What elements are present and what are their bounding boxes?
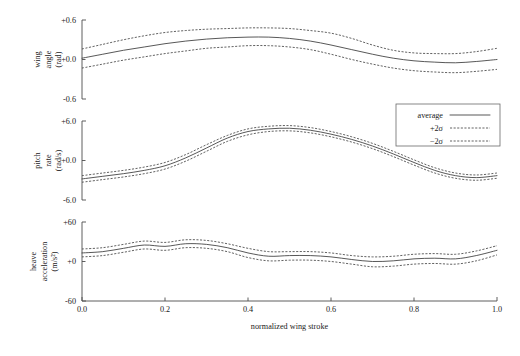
x-tick-label-3: 0.6 xyxy=(326,305,336,314)
y-tick-label-heave-acceleration-0: +60 xyxy=(63,218,76,227)
y-axis-title-pitch-rate-line1: rate xyxy=(44,154,53,167)
x-axis-title: normalized wing stroke xyxy=(251,322,329,331)
y-axis-title-heave-acceleration-line2: (m/s²) xyxy=(50,251,59,271)
y-tick-label-pitch-rate-0: +6.0 xyxy=(61,117,76,126)
panel-heave-acceleration: +60+0-60heaveacceleration(m/s²) xyxy=(29,218,497,306)
y-tick-label-wing-angle-2: -0.6 xyxy=(63,95,76,104)
curve-wing-angle-plus2sigma xyxy=(82,28,497,54)
y-axis-title-heave-acceleration-line1: acceleration xyxy=(40,242,49,282)
y-axis-title-pitch-rate-line0: pitch xyxy=(33,152,42,168)
legend: average+2σ−2σ xyxy=(396,104,500,146)
figure-container: +0.6+0.0-0.6wingangle(rad)+6.0+0.0-6.0pi… xyxy=(0,0,520,356)
curve-wing-angle-average xyxy=(82,37,497,63)
legend-label-1: +2σ xyxy=(430,124,444,133)
x-tick-label-2: 0.4 xyxy=(243,305,253,314)
y-axis-title-wing-angle-line0: wing xyxy=(33,51,42,67)
legend-label-0: average xyxy=(418,111,444,120)
x-axis-spine xyxy=(82,297,497,301)
x-tick-label-5: 1.0 xyxy=(492,305,502,314)
curve-heave-acceleration-plus2sigma xyxy=(82,240,497,257)
curve-heave-acceleration-minus2sigma xyxy=(82,248,497,267)
x-tick-label-4: 0.8 xyxy=(409,305,419,314)
y-tick-label-heave-acceleration-2: -60 xyxy=(65,297,76,306)
y-tick-label-pitch-rate-2: -6.0 xyxy=(63,196,76,205)
y-tick-label-wing-angle-1: +0.0 xyxy=(61,55,76,64)
y-axis-title-wing-angle-line2: (rad) xyxy=(54,51,63,67)
curve-heave-acceleration-average xyxy=(82,244,497,262)
y-axis-title-wing-angle-line1: angle xyxy=(44,50,53,68)
legend-label-2: −2σ xyxy=(430,137,444,146)
y-tick-label-heave-acceleration-1: +0 xyxy=(67,257,76,266)
y-axis-title-pitch-rate-line2: (rad/s) xyxy=(54,150,63,172)
x-tick-label-1: 0.2 xyxy=(160,305,170,314)
x-axis: 0.00.20.40.60.81.0normalized wing stroke xyxy=(77,297,502,331)
curve-wing-angle-minus2sigma xyxy=(82,46,497,73)
x-tick-label-0: 0.0 xyxy=(77,305,87,314)
panel-wing-angle: +0.6+0.0-0.6wingangle(rad) xyxy=(33,16,497,104)
legend-box xyxy=(396,104,500,146)
y-axis-title-heave-acceleration-line0: heave xyxy=(29,252,38,271)
multi-panel-plot: +0.6+0.0-0.6wingangle(rad)+6.0+0.0-6.0pi… xyxy=(0,0,520,356)
y-tick-label-wing-angle-0: +0.6 xyxy=(61,16,76,25)
y-tick-label-pitch-rate-1: +0.0 xyxy=(61,156,76,165)
